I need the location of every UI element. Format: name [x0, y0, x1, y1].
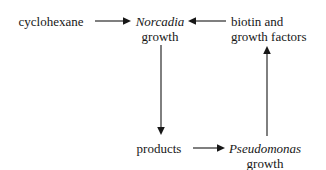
node-biotin-growth-factors: biotin and growth factors [231, 14, 326, 44]
node-norcadia-growth-line-2: growth [110, 29, 210, 44]
arrow-norcadia-to-products [157, 45, 165, 135]
node-pseudomonas-growth-line-1: Pseudomonas [207, 141, 323, 156]
arrow-pseudomonas-to-biotin [263, 46, 271, 136]
node-norcadia-growth-line-1: Norcadia [110, 14, 210, 29]
node-cyclohexane: cyclohexane [0, 14, 102, 29]
node-biotin-growth-factors-line-2: growth factors [231, 29, 326, 44]
node-cyclohexane-line-1: cyclohexane [0, 14, 102, 29]
diagram-canvas: cyclohexane Norcadia growth biotin and g… [0, 0, 326, 170]
node-pseudomonas-growth: Pseudomonas growth [207, 141, 323, 170]
node-pseudomonas-growth-line-2: growth [207, 156, 323, 170]
node-biotin-growth-factors-line-1: biotin and [231, 14, 326, 29]
node-products: products [109, 141, 209, 156]
node-norcadia-growth: Norcadia growth [110, 14, 210, 44]
node-products-line-1: products [109, 141, 209, 156]
